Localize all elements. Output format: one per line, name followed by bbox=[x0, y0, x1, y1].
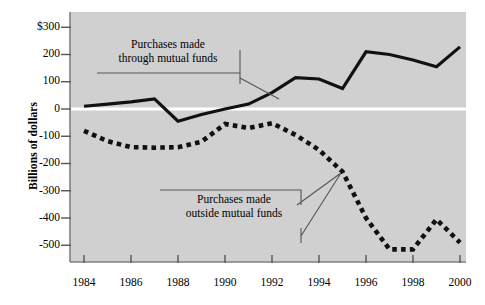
x-tick-label-1986: 1986 bbox=[108, 276, 154, 288]
x-tick-label-1996: 1996 bbox=[343, 276, 389, 288]
y-tick-label-100: 100 bbox=[14, 74, 60, 86]
y-axis-title: Billions of dollars bbox=[27, 66, 39, 226]
y-tick-label-0: 0 bbox=[14, 102, 60, 114]
annotation-outside-mutual-funds-line1: Purchases made bbox=[160, 193, 308, 207]
y-tick-label-neg400: -400 bbox=[14, 211, 60, 223]
annotation-through-mutual-funds-line1: Purchases made bbox=[98, 38, 238, 52]
y-tick-label-neg500: -500 bbox=[14, 238, 60, 250]
x-tick-label-1984: 1984 bbox=[61, 276, 107, 288]
x-tick-label-1998: 1998 bbox=[390, 276, 436, 288]
chart-plot-area bbox=[0, 0, 485, 305]
x-tick-label-1990: 1990 bbox=[202, 276, 248, 288]
annotation-through-mutual-funds-line2: through mutual funds bbox=[98, 52, 238, 66]
x-tick-label-1994: 1994 bbox=[296, 276, 342, 288]
x-tick-label-2000: 2000 bbox=[437, 276, 483, 288]
y-tick-label-200: 200 bbox=[14, 47, 60, 59]
chart-figure: Billions of dollars $300 200 100 0 -100 … bbox=[0, 0, 485, 305]
x-tick-label-1992: 1992 bbox=[249, 276, 295, 288]
annotation-through-mutual-funds: Purchases made through mutual funds bbox=[98, 38, 238, 65]
x-tick-label-1988: 1988 bbox=[155, 276, 201, 288]
y-tick-label-neg100: -100 bbox=[14, 129, 60, 141]
y-tick-label-neg300: -300 bbox=[14, 184, 60, 196]
y-tick-label-neg200: -200 bbox=[14, 156, 60, 168]
annotation-outside-mutual-funds-line2: outside mutual funds bbox=[160, 207, 308, 221]
y-tick-label-300: $300 bbox=[14, 20, 60, 32]
annotation-outside-mutual-funds: Purchases made outside mutual funds bbox=[160, 193, 308, 220]
